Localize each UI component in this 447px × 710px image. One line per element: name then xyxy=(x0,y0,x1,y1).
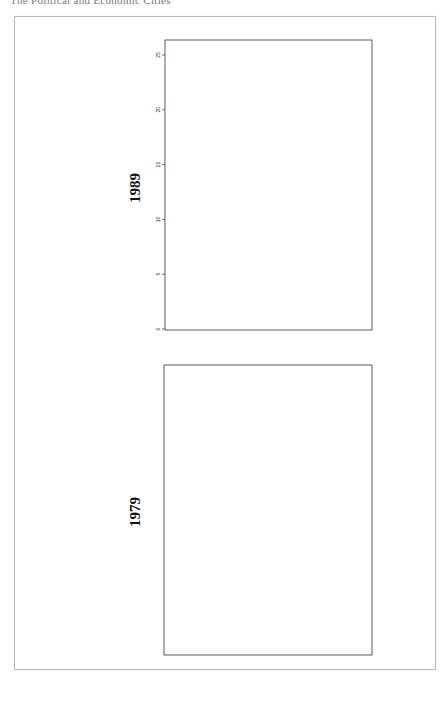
year-label-1979: 1979 xyxy=(127,497,143,527)
year-label-1989: 1989 xyxy=(127,173,143,203)
y-tick-label: 15 xyxy=(155,162,161,168)
y-axis-1989: 0510152025 xyxy=(155,52,165,330)
panel-1989: 1989 0510152025 xyxy=(127,40,372,330)
plot-frame-1989 xyxy=(165,40,372,330)
plot-frame-1979 xyxy=(164,365,372,655)
dendrogram-figure: 1989 0510152025 1979 xyxy=(0,0,447,710)
y-tick-label: 5 xyxy=(155,273,161,276)
y-tick-label: 0 xyxy=(155,327,161,330)
y-tick-label: 25 xyxy=(155,52,161,58)
y-tick-label: 20 xyxy=(155,107,161,113)
y-tick-label: 10 xyxy=(155,216,161,222)
panel-1979: 1979 xyxy=(127,365,372,655)
